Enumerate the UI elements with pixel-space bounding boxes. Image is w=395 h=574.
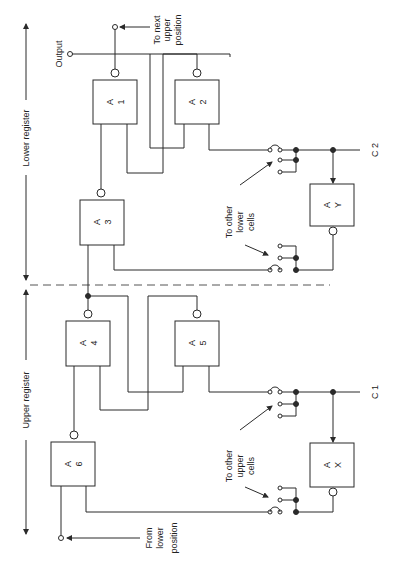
to-other-lower-label-2: lower (235, 211, 245, 233)
to-other-upper-label-1: To other (224, 450, 234, 483)
to-next-upper-label-2: upper (162, 18, 172, 41)
from-lower-label-1: From (144, 528, 154, 549)
to-other-lower-label-1: To other (224, 206, 234, 239)
gate-ax (310, 443, 354, 487)
lower-register-label: Lower register (21, 109, 31, 166)
gate-a6-letter: A (63, 461, 73, 467)
gate-a1-letter: A (105, 99, 115, 105)
c2-label: C 2 (370, 143, 380, 157)
gate-a2 (175, 80, 219, 124)
to-other-lower-label-3: cells (246, 213, 256, 232)
upper-register-label: Upper register (21, 371, 31, 428)
c1-label: C 1 (370, 385, 380, 399)
gate-a1-index: 1 (116, 99, 126, 104)
gate-a4-letter: A (78, 340, 88, 346)
to-other-upper-label-3: cells (246, 457, 256, 476)
next-upper-terminal (113, 25, 118, 30)
gate-a5-index: 5 (198, 340, 208, 345)
register-cell-diagram: Lower register Upper register Output To … (0, 0, 395, 574)
gate-a3-letter: A (92, 219, 102, 225)
gate-ax-letter: A (322, 462, 332, 468)
gate-a6-index: 6 (74, 461, 84, 466)
gate-a3-index: 3 (103, 219, 113, 224)
to-next-upper-label-1: To next (152, 15, 162, 45)
output-terminal (68, 52, 73, 57)
to-next-upper-label-3: position (173, 14, 183, 45)
gate-ay (310, 184, 354, 226)
gate-a5 (175, 321, 219, 366)
from-lower-terminal (59, 536, 64, 541)
to-other-upper-label-2: upper (235, 454, 245, 477)
gate-a6 (51, 442, 95, 486)
from-lower-label-2: lower (155, 527, 165, 549)
gate-ay-letter: A (322, 202, 332, 208)
gate-a3 (80, 200, 124, 245)
gate-ay-index: Y (333, 202, 343, 208)
gate-a4 (66, 321, 110, 366)
gate-a2-index: 2 (198, 99, 208, 104)
from-lower-label-3: position (169, 522, 179, 553)
output-label: Output (54, 40, 64, 68)
gate-a2-letter: A (187, 99, 197, 105)
gate-a4-index: 4 (89, 340, 99, 345)
gate-a1 (93, 80, 137, 124)
gate-a5-letter: A (187, 340, 197, 346)
gate-ax-index: X (333, 462, 343, 468)
